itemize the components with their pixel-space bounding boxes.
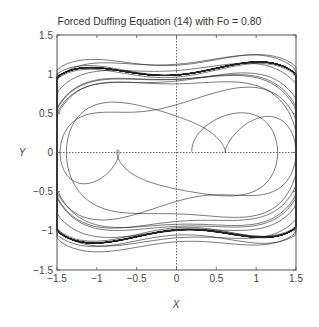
- phase-plot: −1.5−1−0.500.511.5−1.5−1−0.500.511.5 X Y: [0, 0, 319, 327]
- y-tick-label: 1.5: [39, 30, 53, 41]
- y-tick-label: −1.5: [33, 265, 53, 276]
- y-tick-label: −1: [42, 225, 54, 236]
- x-tick-label: 0: [174, 273, 180, 284]
- x-tick-label: 0.5: [209, 273, 223, 284]
- y-tick-label: 0: [47, 147, 53, 158]
- y-tick-label: 1: [47, 69, 53, 80]
- y-tick-label: 0.5: [39, 108, 53, 119]
- x-tick-label: −0.5: [127, 273, 147, 284]
- x-tick-label: 1.5: [289, 273, 303, 284]
- y-axis-label: Y: [19, 147, 27, 158]
- y-tick-label: −0.5: [33, 186, 53, 197]
- x-tick-label: 1: [253, 273, 259, 284]
- x-axis-label: X: [172, 299, 180, 310]
- x-tick-label: −1: [91, 273, 103, 284]
